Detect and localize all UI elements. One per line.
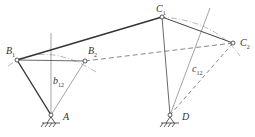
label-c12: c12 (192, 64, 202, 76)
ground-a-icon (41, 117, 60, 127)
chord-b1-b2 (17, 60, 85, 61)
link-c1d (162, 17, 170, 115)
link-ab2 (51, 61, 85, 115)
arc-c (160, 17, 240, 56)
bisector-c12 (170, 8, 210, 115)
arc-b (8, 54, 96, 72)
joint-a (49, 113, 53, 117)
dashed-dc2 (170, 43, 233, 115)
joint-b2 (83, 59, 87, 63)
link-c1c2 (162, 17, 233, 43)
linkage-diagram: B1 B2 C1 C2 A D b12 c12 (0, 0, 255, 137)
label-d: D (182, 112, 189, 122)
joint-b1 (15, 58, 19, 62)
ground-d-icon (160, 117, 179, 127)
label-b2: B2 (88, 46, 97, 58)
link-ab1 (17, 60, 51, 115)
label-a: A (63, 112, 69, 122)
label-c1: C1 (156, 4, 166, 16)
dashed-b2c2 (85, 43, 233, 61)
joint-c2 (231, 41, 235, 45)
label-c2: C2 (240, 38, 250, 50)
label-b1: B1 (6, 46, 15, 58)
label-b12: b12 (53, 76, 64, 88)
joint-d (168, 113, 172, 117)
diagram-canvas (0, 0, 255, 137)
